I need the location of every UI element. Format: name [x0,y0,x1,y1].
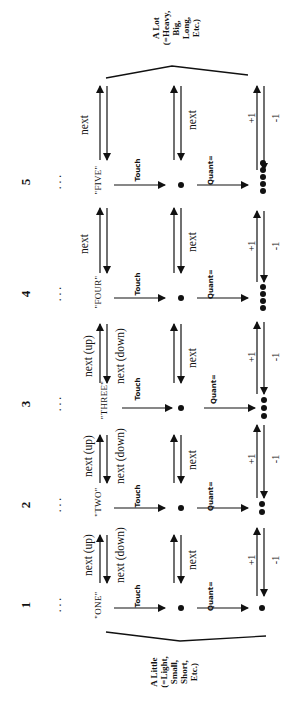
quantity-dot-4b [260,291,266,297]
quantity-dot-3c [261,413,267,419]
quantity-dot-3a [261,397,267,403]
next-label-middle-1-2: next [186,550,198,570]
next-up-label-1-2: next (up) [82,534,94,576]
minus-one-label-5-top: -1 [270,114,281,122]
quantity-dot-5c [260,174,266,180]
number-word-five: "FIVE" [93,165,103,194]
number-word-three: "THREE" [99,381,109,419]
touch-label-2: Touch [134,485,142,508]
next-label-5-top: next [78,115,90,135]
single-dot-2 [178,505,184,511]
next-label-middle-3-4: next [186,348,198,368]
ellipsis-3: . . . [51,397,63,411]
quantity-dot-1a [259,605,265,611]
quant-label-2: Quant= [207,481,215,511]
plus-one-label-4-5: +1 [246,241,257,252]
number-word-one: "ONE" [93,591,103,618]
next-label-4-5: next [78,234,90,254]
bottom-brace [106,632,266,641]
number-word-two: "TWO" [93,487,103,516]
ellipsis-1: . . . [51,598,63,612]
single-dot-3 [178,405,184,411]
next-label-middle-4-5: next [186,232,198,252]
next-up-label-3-4: next (up) [82,335,94,377]
plus-one-label-5-top: +1 [246,113,257,124]
plus-one-label-2-3: +1 [246,454,257,465]
next-label-middle-2-3: next [186,450,198,470]
ellipsis-5: . . . [51,175,63,189]
row-number-1: 1 [18,602,34,609]
minus-one-label-4-5: -1 [270,242,281,250]
quantity-dot-5a [260,160,266,166]
ellipsis-2: . . . [51,498,63,512]
quantity-dot-2b [259,509,265,515]
number-word-four: "FOUR" [93,275,103,308]
bottom-brace-label: A Little (=Light, Small, Short, Etc.) [149,656,199,687]
single-dot-5 [178,182,184,188]
quant-label-1: Quant= [207,581,215,611]
touch-label-5: Touch [134,159,142,182]
quantity-dot-5e [260,188,266,194]
row-number-4: 4 [18,291,34,298]
quantity-dot-4d [260,305,266,311]
touch-label-3: Touch [134,378,142,401]
single-dot-1 [178,605,184,611]
ellipsis-4: . . . [51,287,63,301]
touch-label-4: Touch [134,273,142,296]
next-down-label-3-4: next (down) [114,328,126,384]
quantity-dot-4c [260,298,266,304]
minus-one-label-3-4: -1 [270,353,281,361]
minus-one-label-1-2: -1 [270,556,281,564]
plus-one-label-1-2: +1 [246,555,257,566]
minus-one-label-2-3: -1 [270,455,281,463]
row-number-5: 5 [18,179,34,186]
quantity-dot-4a [260,284,266,290]
quant-label-3: Quant= [210,374,218,404]
next-up-label-2-3: next (up) [82,435,94,477]
row-number-2: 2 [18,502,34,509]
quant-label-4: Quant= [207,269,215,299]
quant-label-5: Quant= [207,155,215,185]
quantity-dot-5d [260,181,266,187]
single-dot-4 [178,295,184,301]
row-number-3: 3 [18,401,34,408]
top-brace-label: A Lot (=Heavy, Big, Long, Etc.) [151,11,201,45]
touch-label-1: Touch [134,585,142,608]
next-label-middle-5-top: next [186,110,198,130]
next-down-label-1-2: next (down) [114,527,126,583]
plus-one-label-3-4: +1 [246,352,257,363]
next-down-label-2-3: next (down) [114,428,126,484]
quantity-dot-3b [261,405,267,411]
quantity-dot-2a [259,501,265,507]
quantity-dot-5b [260,167,266,173]
top-brace [106,66,248,78]
